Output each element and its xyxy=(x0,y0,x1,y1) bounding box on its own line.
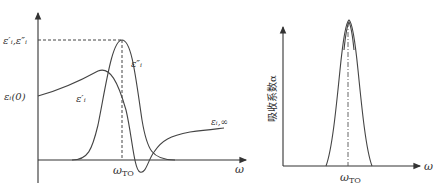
right-plot: 吸收系数α ωTO ω xyxy=(266,20,433,185)
absorption-coefficient-label: 吸收系数α xyxy=(266,75,278,122)
peak-label: ε′ᵢ,ε″ᵢ xyxy=(3,35,27,46)
imag-curve-label: ε″ᵢ xyxy=(131,58,142,69)
right-x-axis-label: ω xyxy=(424,160,433,173)
left-x-tick-omega-to: ωTO xyxy=(113,164,134,178)
static-permittivity-label: εᵢ(0) xyxy=(4,91,26,102)
absorption-curve-inner xyxy=(344,22,354,50)
dielectric-diagram: ε′ᵢ,ε″ᵢ εᵢ(0) ε′ᵢ ε″ᵢ εᵢ,∞ ωTO ω 吸收系数α ω… xyxy=(0,0,439,191)
real-curve xyxy=(38,70,224,172)
real-curve-label: ε′ᵢ xyxy=(76,93,86,104)
left-plot: ε′ᵢ,ε″ᵢ εᵢ(0) ε′ᵢ ε″ᵢ εᵢ,∞ ωTO ω xyxy=(3,13,246,183)
high-freq-label: εᵢ,∞ xyxy=(211,117,228,127)
absorption-curve xyxy=(326,20,372,166)
left-x-axis-label: ω xyxy=(235,163,244,176)
right-x-tick-omega-to: ωTO xyxy=(340,171,361,185)
